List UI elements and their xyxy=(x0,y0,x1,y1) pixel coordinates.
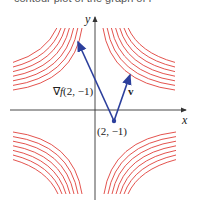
point-label: (2, −1) xyxy=(97,126,127,137)
contour-line xyxy=(13,137,78,194)
contour-line xyxy=(116,28,175,76)
contour-line xyxy=(128,28,175,62)
contour-curves xyxy=(13,28,176,194)
contour-line xyxy=(112,141,176,194)
contour-line xyxy=(107,28,175,85)
contour-line xyxy=(116,146,176,194)
contour-line xyxy=(13,141,74,194)
v-label: v xyxy=(128,86,134,97)
v-vector-arrow xyxy=(114,75,130,121)
contour-line xyxy=(13,28,74,81)
y-axis-label: y xyxy=(85,13,90,25)
gradient-args: (2, −1) xyxy=(63,85,93,97)
contour-line xyxy=(124,155,176,194)
contour-line xyxy=(108,137,176,194)
contour-plot xyxy=(0,0,198,210)
contour-line xyxy=(13,160,58,194)
point-marker xyxy=(112,119,116,123)
nabla-symbol: ∇ xyxy=(53,85,60,97)
gradient-label: ∇f(2, −1) xyxy=(53,86,93,97)
contour-line xyxy=(13,28,57,62)
x-axis-label: x xyxy=(182,114,187,126)
contour-line xyxy=(128,160,176,194)
contour-line xyxy=(111,28,175,81)
contour-line xyxy=(13,28,78,85)
gradient-vector-arrow xyxy=(78,42,114,121)
